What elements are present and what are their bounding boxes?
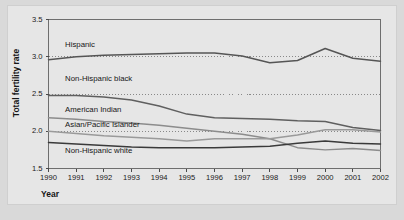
x-tick-label: 1995 <box>172 173 202 182</box>
x-tick-label: 1999 <box>283 173 313 182</box>
y-axis-title: Total fertility rate <box>11 35 21 131</box>
series-label-american-indian: American Indian <box>65 105 121 114</box>
y-tick-label: 2.0 <box>21 126 43 135</box>
x-axis-title: Year <box>41 189 59 199</box>
x-tick-label: 2000 <box>310 173 340 182</box>
x-tick-label: 1993 <box>117 173 147 182</box>
series-label-asian-pacific-islander: Asian/Pacific Islander <box>65 120 140 129</box>
chart-plot-area <box>0 0 404 220</box>
x-tick-label: 2001 <box>338 173 368 182</box>
x-tick-label: 1994 <box>144 173 174 182</box>
x-tick-label: 1990 <box>34 173 64 182</box>
x-tick-label: 1992 <box>89 173 119 182</box>
chart-figure: Total fertility rate Year 1.52.02.53.03.… <box>0 0 404 220</box>
data-lines-group <box>49 49 381 151</box>
x-tick-label: 1991 <box>61 173 91 182</box>
series-label-hispanic: Hispanic <box>65 40 95 49</box>
series-label-non-hispanic-white: Non-Hispanic white <box>65 146 132 155</box>
x-tick-label: 2002 <box>366 173 396 182</box>
x-tick-label: 1998 <box>255 173 285 182</box>
data-line-hispanic <box>49 49 381 63</box>
y-tick-label: 2.5 <box>21 89 43 98</box>
x-tick-label: 1997 <box>227 173 257 182</box>
y-tick-label: 3.0 <box>21 52 43 61</box>
series-label-non-hispanic-black: Non-Hispanic black <box>65 74 132 83</box>
y-tick-label: 3.5 <box>21 15 43 24</box>
x-tick-label: 1996 <box>200 173 230 182</box>
y-tick-label: 1.5 <box>21 164 43 173</box>
